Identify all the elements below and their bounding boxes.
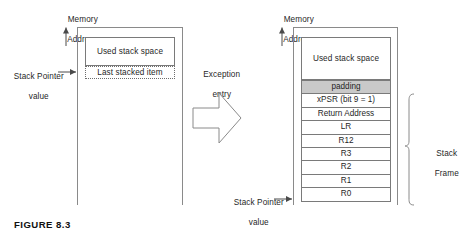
stack-frame-row: Return Address	[301, 107, 391, 121]
stack-pointer-label-left-line1: Stack Pointer	[14, 72, 64, 81]
memory-column-right-edge-right	[397, 27, 398, 205]
stack-frame-bracket-label-line1: Stack	[436, 149, 457, 158]
memory-address-label-right-line1: Memory	[284, 15, 314, 24]
exception-entry-label-line2: entry	[212, 90, 231, 99]
used-stack-space-label-right: Used stack space	[301, 54, 391, 64]
stack-frame-row: LR	[301, 120, 391, 134]
last-stacked-item-label: Last stacked item	[85, 68, 175, 78]
stack-frame-bracket-label: Stack Frame	[422, 139, 462, 189]
stack-pointer-label-right-line2: value	[249, 218, 269, 227]
memory-top-rule-left	[77, 27, 183, 28]
stack-frame-bracket-label-line2: Frame	[435, 169, 459, 178]
stack-frame-row: R1	[301, 174, 391, 188]
stack-frame-row: R0	[301, 187, 391, 201]
stack-frame-row: R12	[301, 134, 391, 148]
stack-pointer-label-left: Stack Pointer value	[3, 62, 65, 112]
stack-frame-row: R3	[301, 147, 391, 161]
stack-frame-row: R2	[301, 160, 391, 174]
stack-frame-row: xPSR (bit 9 = 1)	[301, 93, 391, 107]
stack-pointer-label-right: Stack Pointer value	[219, 188, 289, 238]
memory-column-right-edge-left	[182, 27, 183, 205]
used-stack-space-label-left: Used stack space	[85, 47, 175, 57]
memory-column-left-edge-left	[77, 27, 78, 205]
stack-pointer-label-left-line2: value	[29, 92, 49, 101]
memory-address-label-left-line1: Memory	[68, 15, 98, 24]
memory-top-rule-right	[293, 27, 398, 28]
figure-caption: FIGURE 8.3	[14, 219, 71, 230]
figure-8-3: Memory Address Used stack space Last sta…	[0, 0, 464, 240]
memory-column-left-edge-right	[293, 27, 294, 205]
exception-entry-label-line1: Exception	[203, 70, 240, 79]
stack-frame-bracket	[405, 94, 414, 205]
stack-frame-row: padding	[301, 80, 391, 94]
exception-entry-label: Exception entry	[186, 60, 248, 110]
stack-pointer-label-right-line1: Stack Pointer	[234, 198, 284, 207]
